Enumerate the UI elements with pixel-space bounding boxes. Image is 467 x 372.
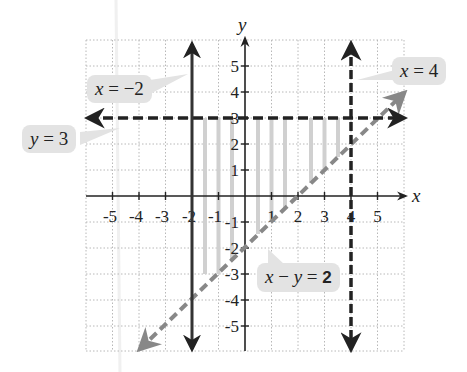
y-axis-label: y <box>236 14 247 35</box>
svg-text:-3: -3 <box>225 265 239 284</box>
svg-text:-1: -1 <box>208 207 222 226</box>
page-fold <box>116 0 120 372</box>
label-x-minus-y-eq-2: x − y = 2 <box>257 263 340 292</box>
svg-text:-5: -5 <box>225 317 239 336</box>
svg-text:-1: -1 <box>225 213 239 232</box>
svg-text:-3: -3 <box>155 207 169 226</box>
svg-text:4: 4 <box>231 83 240 102</box>
x-tick-labels: -5 -4 -3 -2 -1 1 2 3 4 5 <box>103 207 382 226</box>
svg-text:-4: -4 <box>129 207 144 226</box>
svg-text:-4: -4 <box>225 291 240 310</box>
svg-text:5: 5 <box>373 207 382 226</box>
label-x-eq-4: x = 4 <box>392 57 446 85</box>
coordinate-graph: -5 -4 -3 -2 -1 1 2 3 4 5 5 4 3 2 1 -1 -2… <box>0 0 467 372</box>
x-axis-label: x <box>411 185 421 206</box>
svg-text:5: 5 <box>231 57 240 76</box>
label-y-eq-3: y = 3 <box>22 125 76 153</box>
svg-text:3: 3 <box>320 207 329 226</box>
svg-text:2: 2 <box>294 207 303 226</box>
svg-text:-2: -2 <box>182 207 196 226</box>
svg-text:-5: -5 <box>103 207 117 226</box>
svg-text:1: 1 <box>231 161 240 180</box>
label-x-eq-neg2: x = −2 <box>87 75 152 103</box>
svg-text:2: 2 <box>231 135 240 154</box>
